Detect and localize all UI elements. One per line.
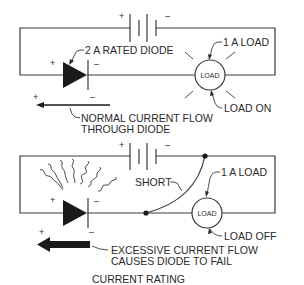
top-diode-minus: – <box>94 59 99 69</box>
bottom-flow-leader <box>92 246 108 250</box>
top-battery-plus: + <box>119 11 124 21</box>
bottom-circuit-wire-top-left <box>20 156 130 213</box>
top-diode-icon <box>63 60 88 90</box>
top-flow-leader <box>70 108 80 118</box>
bottom-battery-plus: + <box>119 140 124 150</box>
top-load-state-label: LOAD ON <box>224 102 271 114</box>
bottom-load-text: LOAD <box>197 210 216 217</box>
top-circuit: + – + – 2 A RATED DIODE LOAD 1 A LOAD LO… <box>20 11 275 135</box>
bottom-current-arrow-icon <box>37 237 90 252</box>
bottom-arrow-plus: + <box>39 227 44 237</box>
bottom-diode-minus: – <box>94 196 99 206</box>
top-load-text: LOAD <box>200 72 219 79</box>
heat-waves-icon <box>40 159 116 191</box>
top-load-rating-label: 1 A LOAD <box>223 36 270 48</box>
bottom-load-state-label: LOAD OFF <box>224 230 277 242</box>
current-rating-diagram: + – + – 2 A RATED DIODE LOAD 1 A LOAD LO… <box>0 0 304 285</box>
top-battery-icon <box>130 14 156 42</box>
top-diode-plus: + <box>50 58 55 68</box>
bottom-flow-label-line2: CAUSES DIODE TO FAIL <box>111 255 232 267</box>
figure-title: CURRENT RATING <box>92 273 185 285</box>
bottom-diode-plus: + <box>50 195 55 205</box>
bottom-load-rating-leader <box>207 172 220 194</box>
short-leader <box>170 182 182 191</box>
bottom-arrow-minus: – <box>89 227 94 237</box>
top-arrow-plus: + <box>33 92 38 102</box>
short-label: SHORT <box>135 176 172 188</box>
top-load-rating-leader <box>210 42 222 57</box>
top-current-arrow-icon <box>36 102 110 108</box>
bottom-circuit: + – SHORT + – LOAD <box>20 140 277 267</box>
top-diode-label: 2 A RATED DIODE <box>85 44 174 56</box>
top-arrow-minus: – <box>90 92 95 102</box>
top-flow-label-line2: THROUGH DIODE <box>81 123 170 135</box>
bottom-load-rating-label: 1 A LOAD <box>221 166 268 178</box>
top-battery-minus: – <box>165 11 170 21</box>
bottom-battery-icon <box>130 143 156 170</box>
bottom-load-state-leader <box>210 229 222 236</box>
bottom-diode-icon <box>63 198 88 228</box>
bottom-battery-minus: – <box>165 140 170 150</box>
